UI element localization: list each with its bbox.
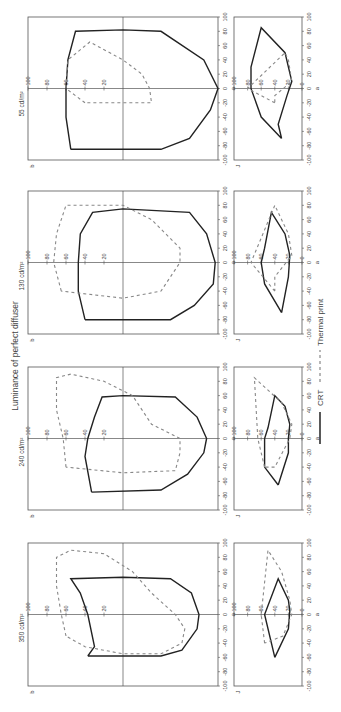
panel-a-b: -100-80-60-40-20020406080100ab2040608010…: [18, 538, 236, 693]
svg-text:a: a: [314, 436, 320, 440]
svg-text:100: 100: [25, 426, 31, 435]
svg-text:80: 80: [44, 429, 50, 435]
svg-text:20: 20: [222, 597, 228, 603]
svg-text:-80: -80: [306, 316, 312, 324]
svg-text:80: 80: [222, 202, 228, 208]
panels: -100-80-60-40-20020406080100ab2040608010…: [18, 12, 320, 693]
svg-text:60: 60: [222, 217, 228, 223]
svg-text:-100: -100: [222, 154, 228, 165]
svg-text:40: 40: [222, 57, 228, 63]
svg-text:-80: -80: [222, 316, 228, 324]
svg-text:100: 100: [222, 12, 228, 21]
svg-text:-40: -40: [306, 463, 312, 471]
svg-text:40: 40: [222, 407, 228, 413]
svg-text:20: 20: [101, 605, 107, 611]
series-crt: [265, 396, 290, 485]
svg-text:-20: -20: [222, 99, 228, 107]
svg-text:60: 60: [306, 393, 312, 399]
svg-text:100: 100: [306, 186, 312, 195]
svg-text:80: 80: [44, 253, 50, 259]
svg-text:80: 80: [306, 554, 312, 560]
legend-thermal-label: Thermal print: [316, 298, 325, 346]
series-crt: [66, 30, 218, 149]
panel-a-J: -100-80-60-40-20020406080100aJ0204060801…: [231, 186, 320, 341]
svg-text:100: 100: [25, 250, 31, 259]
svg-text:-20: -20: [222, 273, 228, 281]
svg-text:40: 40: [272, 429, 278, 435]
svg-text:80: 80: [44, 79, 50, 85]
svg-text:20: 20: [306, 597, 312, 603]
svg-text:-20: -20: [306, 625, 312, 633]
svg-text:40: 40: [306, 231, 312, 237]
legend-crt-label: CRT: [316, 390, 325, 406]
svg-text:J: J: [235, 165, 241, 168]
svg-text:20: 20: [285, 253, 291, 259]
svg-text:130 cd/m²: 130 cd/m²: [18, 261, 25, 291]
series-thermal-print: [57, 550, 185, 654]
svg-text:-40: -40: [222, 463, 228, 471]
svg-text:40: 40: [82, 79, 88, 85]
series-thermal-print: [248, 53, 292, 103]
svg-text:-40: -40: [222, 287, 228, 295]
svg-text:100: 100: [306, 12, 312, 21]
svg-text:-40: -40: [222, 113, 228, 121]
svg-text:80: 80: [222, 378, 228, 384]
svg-text:J: J: [235, 691, 241, 694]
panel-a-J: -100-80-60-40-20020406080100aJ0204060801…: [231, 362, 320, 517]
svg-text:60: 60: [222, 43, 228, 49]
svg-text:-60: -60: [222, 653, 228, 661]
svg-text:55 cd/m²: 55 cd/m²: [18, 90, 25, 116]
svg-text:20: 20: [222, 245, 228, 251]
svg-text:0: 0: [299, 82, 305, 85]
svg-text:0: 0: [299, 432, 305, 435]
svg-text:40: 40: [272, 79, 278, 85]
svg-text:-60: -60: [306, 477, 312, 485]
svg-text:100: 100: [231, 76, 237, 85]
svg-text:100: 100: [306, 538, 312, 547]
svg-text:60: 60: [222, 393, 228, 399]
svg-text:-40: -40: [306, 287, 312, 295]
figure-title: Luminance of perfect diffuser: [10, 301, 20, 411]
chart-canvas: Luminance of perfect diffuser -100-80-60…: [0, 0, 341, 712]
svg-text:-60: -60: [306, 127, 312, 135]
svg-text:80: 80: [44, 605, 50, 611]
svg-text:-20: -20: [222, 449, 228, 457]
svg-text:b: b: [29, 338, 35, 342]
svg-text:100: 100: [25, 76, 31, 85]
svg-text:0: 0: [222, 261, 228, 264]
svg-text:60: 60: [258, 79, 264, 85]
svg-text:60: 60: [306, 43, 312, 49]
svg-text:-80: -80: [306, 492, 312, 500]
svg-text:100: 100: [25, 602, 31, 611]
svg-text:40: 40: [306, 407, 312, 413]
svg-text:-20: -20: [306, 449, 312, 457]
panel-a-J: -100-80-60-40-20020406080100aJ0204060801…: [231, 538, 320, 693]
svg-text:-80: -80: [222, 492, 228, 500]
series-thermal-print: [251, 205, 292, 291]
svg-text:350 cd/m²: 350 cd/m²: [18, 613, 25, 643]
panel-a-b: -100-80-60-40-20020406080100ab2040608010…: [18, 362, 236, 517]
svg-text:80: 80: [245, 605, 251, 611]
svg-text:60: 60: [258, 429, 264, 435]
svg-text:60: 60: [63, 605, 69, 611]
svg-text:-60: -60: [306, 653, 312, 661]
svg-text:-100: -100: [306, 504, 312, 515]
panel-a-b: -100-80-60-40-20020406080100ab2040608010…: [18, 186, 236, 341]
svg-text:20: 20: [222, 421, 228, 427]
svg-text:-100: -100: [306, 680, 312, 691]
series-thermal-print: [54, 205, 180, 298]
svg-text:-40: -40: [306, 639, 312, 647]
svg-text:100: 100: [231, 602, 237, 611]
svg-text:-100: -100: [222, 504, 228, 515]
svg-text:80: 80: [245, 253, 251, 259]
svg-text:-40: -40: [222, 639, 228, 647]
svg-text:0: 0: [306, 261, 312, 264]
svg-text:-80: -80: [306, 668, 312, 676]
svg-text:-100: -100: [222, 328, 228, 339]
svg-text:40: 40: [306, 57, 312, 63]
svg-text:-40: -40: [306, 113, 312, 121]
panel-a-J: -100-80-60-40-20020406080100aJ0204060801…: [231, 12, 320, 167]
svg-text:b: b: [29, 690, 35, 694]
svg-text:60: 60: [306, 569, 312, 575]
svg-text:240 cd/m²: 240 cd/m²: [18, 437, 25, 467]
